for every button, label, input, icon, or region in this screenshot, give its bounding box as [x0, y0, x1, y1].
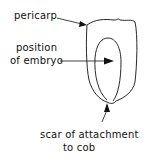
embryo-arrowhead — [104, 58, 114, 65]
embryo-label-line2: of embryo — [10, 55, 63, 67]
embryo-label-line1: position — [16, 42, 57, 54]
embryo-outline — [95, 38, 121, 101]
pericarp-label: pericarp — [14, 10, 57, 22]
scar-label-line2: to cob — [63, 142, 95, 154]
scar-label-line1: scar of attachment — [40, 129, 139, 141]
pericarp-arrow-line — [57, 18, 82, 24]
scar-arrowhead — [104, 103, 110, 112]
pericarp-arrowhead — [79, 21, 87, 27]
